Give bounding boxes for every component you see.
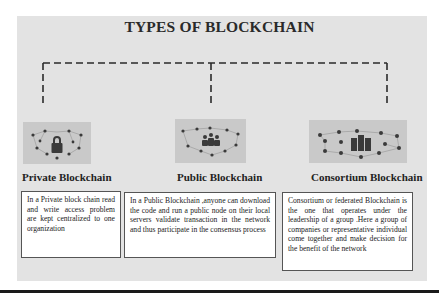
public-blockchain-image [175, 119, 246, 163]
network-buildings-icon [309, 120, 407, 163]
consortium-blockchain-image [309, 120, 407, 163]
consortium-blockchain-description: Consortium or federated Blockchain is th… [282, 192, 413, 271]
consortium-blockchain-label: Consortium Blockchain [311, 171, 423, 183]
network-users-icon [175, 119, 246, 163]
bottom-divider [0, 290, 439, 293]
private-blockchain-image [23, 122, 91, 164]
private-blockchain-label: Private Blockchain [22, 171, 112, 183]
network-lock-icon [23, 122, 91, 164]
public-blockchain-description: In a Public Blockchain ,anyone can downl… [124, 192, 276, 258]
public-blockchain-label: Public Blockchain [177, 171, 262, 183]
private-blockchain-description: In a Private block chain read and write … [21, 191, 121, 258]
